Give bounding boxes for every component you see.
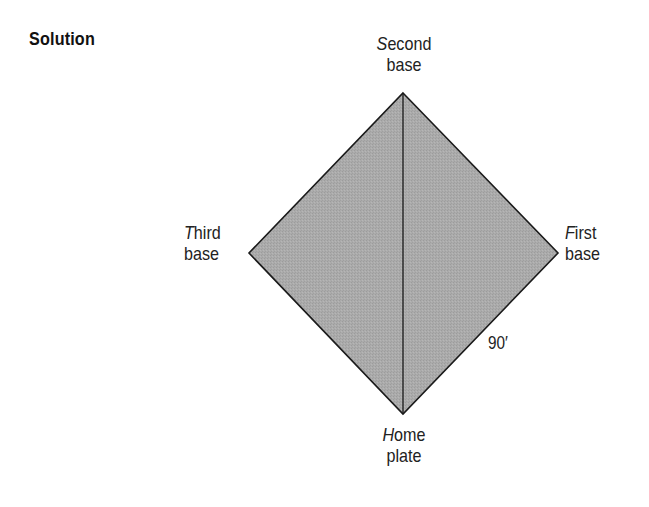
third-base-label: Third base (184, 222, 244, 264)
first-base-label: First base (565, 222, 625, 264)
second-base-label: Second base (368, 33, 439, 75)
side-length-label: 90′ (488, 333, 508, 354)
home-plate-label: Home plate (368, 424, 439, 466)
baseball-diamond (0, 0, 649, 507)
